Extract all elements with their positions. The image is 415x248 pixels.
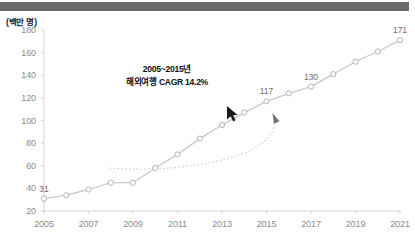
data-point-label: 130 [304, 72, 318, 82]
x-tick-label: 2009 [115, 219, 151, 229]
x-tick-label: 2021 [382, 219, 415, 229]
x-tick-label: 2007 [71, 219, 107, 229]
cagr-annotation-line1: 2005~2015년 [108, 63, 226, 76]
series-marker [219, 122, 224, 127]
y-tick-label: 20 [10, 206, 36, 216]
mouse-pointer-icon [226, 105, 242, 125]
series-marker [331, 72, 336, 77]
y-tick-label: 180 [10, 25, 36, 35]
x-tick-label: 2017 [293, 219, 329, 229]
x-tick-label: 2005 [26, 219, 62, 229]
y-tick-label: 120 [10, 93, 36, 103]
series-marker [197, 136, 202, 141]
data-point-label: 171 [393, 25, 407, 35]
callout-arrow-path [110, 113, 274, 169]
data-point-label: 117 [260, 86, 274, 96]
axis-lines [44, 30, 400, 211]
y-tick-label: 60 [10, 161, 36, 171]
cagr-annotation: 2005~2015년 해외여행 CAGR 14.2% [108, 63, 226, 89]
x-tick-label: 2015 [249, 219, 285, 229]
series-marker [353, 59, 358, 64]
series-marker [264, 99, 269, 104]
series-marker [153, 165, 158, 170]
callout-arrow-head [273, 113, 280, 124]
x-tick-label: 2013 [204, 219, 240, 229]
series-marker [397, 38, 402, 43]
series-marker [130, 180, 135, 185]
x-tick-label: 2019 [338, 219, 374, 229]
series-marker [375, 49, 380, 54]
series-marker [175, 152, 180, 157]
series-marker [108, 180, 113, 185]
y-tick-label: 40 [10, 183, 36, 193]
y-tick-label: 100 [10, 116, 36, 126]
data-point-label: 31 [39, 184, 48, 194]
series-marker [286, 91, 291, 96]
cagr-annotation-line2: 해외여행 CAGR 14.2% [108, 76, 226, 89]
y-tick-label: 160 [10, 48, 36, 58]
series-marker [242, 110, 247, 115]
y-tick-label: 140 [10, 70, 36, 80]
series-marker [41, 196, 46, 201]
y-tick-label: 80 [10, 138, 36, 148]
series-marker [86, 187, 91, 192]
series-marker [64, 193, 69, 198]
x-tick-label: 2011 [160, 219, 196, 229]
series-marker [308, 84, 313, 89]
